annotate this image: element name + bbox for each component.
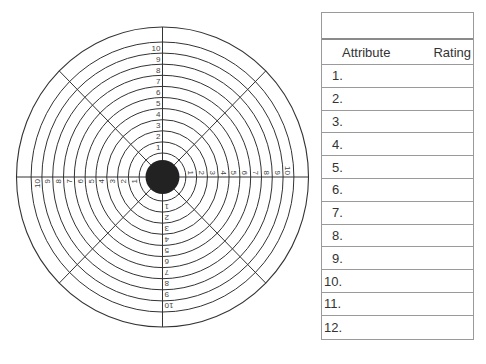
ring-label-top-8: 8 [156,66,161,75]
ring-label-bottom-9: 9 [164,290,169,299]
table-row: 12. [322,316,473,339]
ring-label-left-6: 6 [76,178,85,183]
table-row: 1. [322,65,473,88]
ring-label-right-10: 10 [283,166,292,175]
bullseye-center [146,160,180,194]
rating-target-diagram: 1111222233334444555566667777888899991010… [0,0,320,364]
ring-label-left-1: 1 [130,178,139,183]
ring-label-left-3: 3 [108,178,117,183]
ring-label-top-4: 4 [156,110,161,119]
ring-label-left-8: 8 [54,178,63,183]
ring-label-right-8: 8 [262,171,271,176]
ring-label-right-3: 3 [208,171,217,176]
ring-label-right-5: 5 [229,171,238,176]
table-row: 8. [322,225,473,248]
ring-label-top-10: 10 [152,44,161,53]
diagonal-line [59,71,151,165]
ring-label-bottom-1: 1 [164,202,169,211]
ring-label-bottom-5: 5 [164,246,169,255]
ring-label-bottom-10: 10 [164,301,173,310]
ring-label-bottom-8: 8 [164,279,169,288]
target-svg: 1111222233334444555566667777888899991010… [0,0,320,364]
ring-label-left-5: 5 [87,178,96,183]
ring-label-left-10: 10 [33,178,42,187]
table-header-row: Attribute Rating [322,40,473,65]
ring-label-left-7: 7 [65,178,74,183]
ring-label-top-1: 1 [156,143,161,152]
table-row: 3. [322,111,473,134]
table-row: 2. [322,88,473,111]
ring-label-right-6: 6 [240,171,249,176]
ring-label-right-4: 4 [219,171,228,176]
ring-label-top-3: 3 [156,121,161,130]
table-row: 4. [322,133,473,156]
ring-label-top-9: 9 [156,55,161,64]
ring-label-right-1: 1 [186,171,195,176]
ring-label-bottom-2: 2 [164,213,169,222]
table-row: 7. [322,202,473,225]
diagonal-line [174,189,266,283]
ring-label-right-7: 7 [251,171,260,176]
rating-header: Rating [433,45,473,60]
ring-label-left-9: 9 [43,178,52,183]
attribute-rating-table: Attribute Rating 1. 2. 3. 4. 5. 6. 7. 8.… [321,12,474,340]
table-row: 9. [322,247,473,270]
table-row: 11. [322,293,473,316]
ring-label-right-9: 9 [273,171,282,176]
diagonal-line [174,71,266,165]
ring-label-bottom-3: 3 [164,224,169,233]
ring-label-left-4: 4 [97,178,106,183]
ring-label-left-2: 2 [119,178,128,183]
ring-label-top-2: 2 [156,132,161,141]
table-row: 6. [322,179,473,202]
table-row: 10. [322,270,473,293]
ring-label-top-6: 6 [156,88,161,97]
table-title-cell [322,13,473,40]
ring-label-bottom-6: 6 [164,257,169,266]
ring-label-bottom-7: 7 [164,268,169,277]
ring-label-bottom-4: 4 [164,235,169,244]
ring-label-top-7: 7 [156,77,161,86]
table-row: 5. [322,156,473,179]
ring-label-right-2: 2 [197,171,206,176]
attribute-header: Attribute [322,45,433,60]
ring-label-top-5: 5 [156,99,161,108]
diagonal-line [59,189,151,283]
